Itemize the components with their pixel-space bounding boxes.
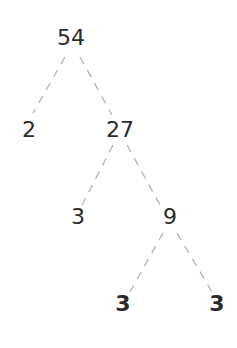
edge-27-to-9 [127, 145, 160, 205]
node-factor-2: 2 [22, 119, 36, 141]
factor-tree-diagram: 54 2 27 3 9 3 3 [0, 0, 237, 348]
edge-54-to-27 [80, 57, 112, 115]
node-prime-3-left: 3 [115, 293, 130, 315]
node-factor-9: 9 [163, 206, 177, 228]
node-root-54: 54 [57, 27, 85, 49]
node-factor-3: 3 [71, 206, 85, 228]
edge-27-to-3 [82, 145, 113, 205]
edge-9-to-3-right [177, 233, 212, 292]
node-prime-3-right: 3 [209, 293, 224, 315]
edge-54-to-2 [33, 57, 65, 113]
node-factor-27: 27 [106, 119, 134, 141]
edge-9-to-3-left [130, 233, 163, 292]
